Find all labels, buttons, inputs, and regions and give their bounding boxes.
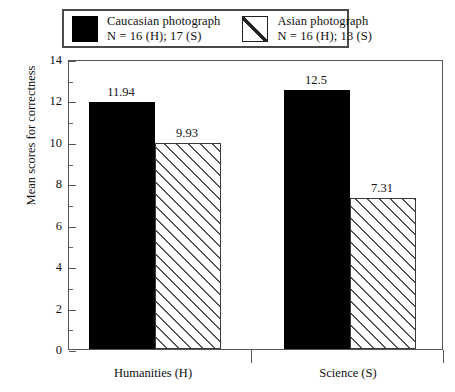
x-axis-tick — [443, 350, 444, 363]
scan-artifact-text — [150, 0, 310, 5]
legend-swatch-solid-black-icon — [72, 16, 98, 42]
bar-value-label: 11.94 — [88, 85, 154, 100]
y-tick-minor — [69, 289, 73, 290]
y-tick-major — [69, 351, 76, 352]
legend-swatch-diagonal-hatch-icon — [242, 16, 268, 42]
bar-asian-science — [350, 198, 416, 349]
y-tick-major — [69, 268, 76, 269]
y-tick-label: 6 — [32, 220, 62, 232]
bar-caucasian-science — [284, 90, 350, 349]
y-tick-major — [69, 144, 76, 145]
hatch-pattern-fill — [350, 198, 416, 349]
legend-entry-caucasian: Caucasian photograph N = 16 (H); 17 (S) — [64, 11, 220, 46]
x-category-label-science: Science (S) — [278, 366, 418, 381]
y-tick-major — [69, 310, 76, 311]
plot-frame — [68, 60, 443, 350]
legend-label-caucasian: Caucasian photograph — [107, 14, 220, 29]
y-tick-major — [69, 102, 76, 103]
y-tick-minor — [69, 123, 73, 124]
hatch-pattern-fill — [155, 143, 221, 349]
legend-entry-caucasian-text: Caucasian photograph N = 16 (H); 17 (S) — [107, 14, 220, 44]
x-axis-tick — [251, 350, 252, 363]
y-tick-minor — [69, 165, 73, 166]
y-tick-major — [69, 61, 76, 62]
bar-value-label: 7.31 — [349, 181, 415, 196]
y-tick-label: 4 — [32, 261, 62, 273]
legend-entry-asian-text: Asian photograph N = 16 (H); 13 (S) — [277, 14, 372, 44]
legend-sublabel-caucasian: N = 16 (H); 17 (S) — [107, 29, 220, 44]
y-tick-label: 8 — [32, 178, 62, 190]
plot-inner — [69, 61, 442, 349]
y-tick-label: 14 — [32, 54, 62, 66]
bar-value-label: 9.93 — [154, 126, 220, 141]
y-axis-title: Mean scores for correctness — [24, 41, 39, 231]
y-tick-label: 12 — [32, 95, 62, 107]
y-tick-minor — [69, 330, 73, 331]
bar-asian-humanities — [155, 143, 221, 349]
y-tick-minor — [69, 82, 73, 83]
y-tick-minor — [69, 206, 73, 207]
x-category-label-humanities: Humanities (H) — [83, 366, 223, 381]
legend-sublabel-asian: N = 16 (H); 13 (S) — [277, 29, 372, 44]
y-tick-major — [69, 185, 76, 186]
legend-entry-asian: Asian photograph N = 16 (H); 13 (S) — [220, 11, 372, 46]
y-tick-label: 2 — [32, 303, 62, 315]
bar-caucasian-humanities — [89, 102, 155, 349]
bar-value-label: 12.5 — [283, 73, 349, 88]
y-tick-major — [69, 227, 76, 228]
y-tick-label: 0 — [32, 344, 62, 356]
y-tick-minor — [69, 247, 73, 248]
legend-label-asian: Asian photograph — [277, 14, 372, 29]
chart-legend: Caucasian photograph N = 16 (H); 17 (S) … — [62, 9, 349, 48]
y-tick-label: 10 — [32, 137, 62, 149]
